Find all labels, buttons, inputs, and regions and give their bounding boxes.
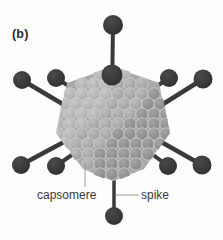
spike-label: spike bbox=[141, 189, 169, 201]
capsomere-label: capsomere bbox=[37, 189, 96, 201]
spike-lower-left-inner-knob bbox=[47, 157, 65, 175]
spike-top-base-knob bbox=[102, 65, 123, 86]
virus-structure-figure: (b) capsomere spike bbox=[0, 0, 223, 240]
spike-upper-left-inner-knob bbox=[47, 69, 65, 87]
spike-lower-right-outer-knob bbox=[193, 156, 212, 175]
spike-lower-left-outer-knob bbox=[12, 156, 30, 174]
spike-upper-right-outer-knob bbox=[194, 70, 213, 89]
spike-top-knob bbox=[103, 15, 123, 35]
spike-lower-right-inner-knob bbox=[159, 157, 177, 175]
spike-upper-left-outer-knob bbox=[13, 71, 31, 89]
spike-upper-right-inner-knob bbox=[160, 69, 178, 87]
panel-label: (b) bbox=[12, 28, 29, 41]
virus-diagram-svg bbox=[0, 0, 223, 240]
spike-bottom-knob bbox=[105, 207, 123, 225]
